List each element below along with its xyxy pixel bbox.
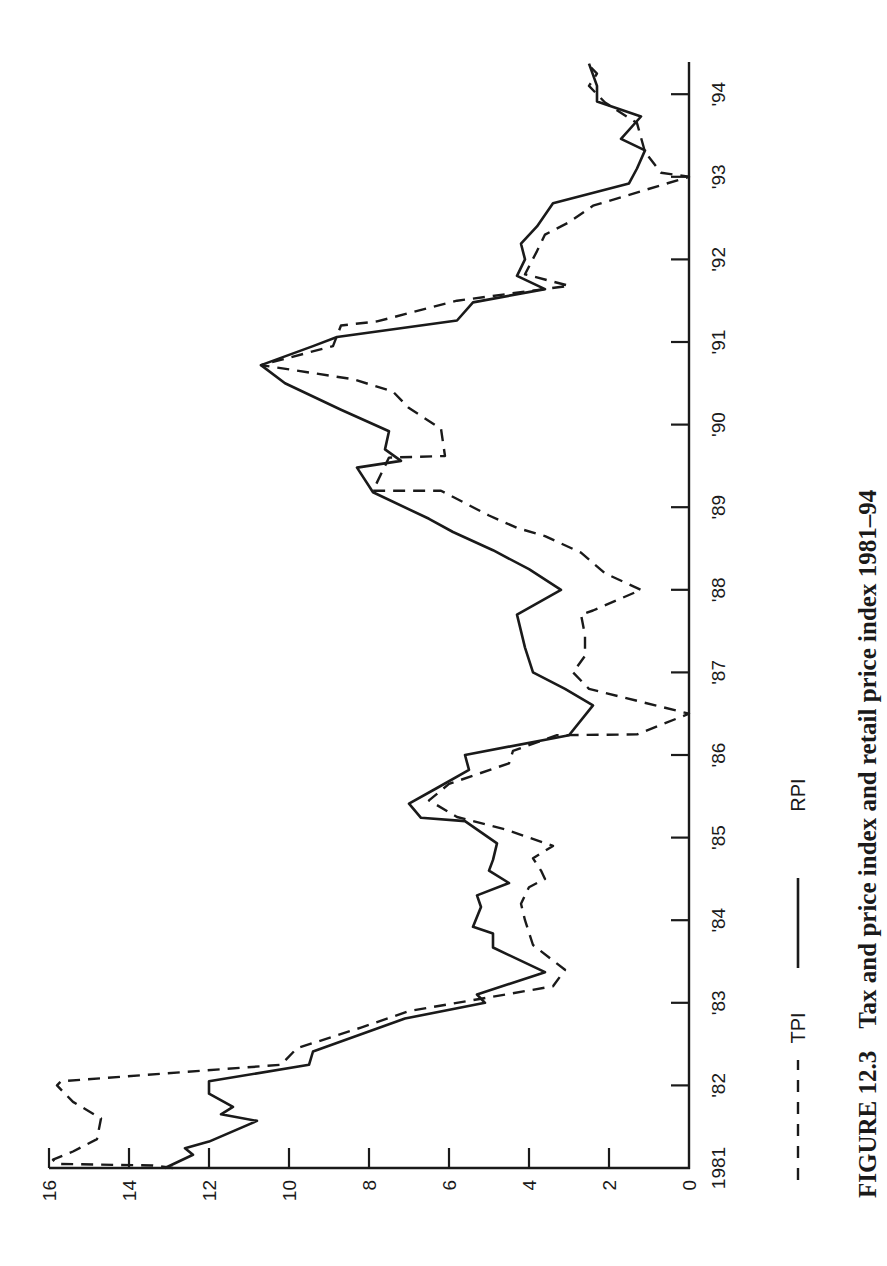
value-tick-label: 12	[199, 1180, 220, 1201]
legend-label-tpi: TPI	[787, 1012, 809, 1043]
time-tick-label: '85	[708, 825, 729, 850]
time-tick-label: '93	[708, 164, 729, 189]
figure-title: Tax and price index and retail price ind…	[854, 489, 881, 1028]
value-tick-label: 16	[39, 1180, 60, 1201]
line-chart: 02468101214161981'82'83'84'85'86'87'88'8…	[0, 0, 887, 1266]
time-tick-label: '83	[708, 990, 729, 1015]
time-tick-label: '89	[708, 495, 729, 520]
figure-number: FIGURE 12.3	[854, 1051, 881, 1198]
value-tick-label: 2	[599, 1180, 620, 1191]
value-tick-label: 10	[279, 1180, 300, 1201]
value-tick-label: 8	[359, 1180, 380, 1191]
legend-label-rpi: RPI	[787, 778, 809, 811]
figure-caption: FIGURE 12.3Tax and price index and retai…	[854, 489, 881, 1198]
value-tick-label: 14	[119, 1180, 140, 1202]
chart-axes: 02468101214161981'82'83'84'85'86'87'88'8…	[39, 62, 729, 1201]
time-tick-label: '94	[708, 81, 729, 106]
time-tick-label: 1981	[708, 1147, 729, 1189]
value-tick-label: 4	[519, 1180, 540, 1191]
time-tick-label: '92	[708, 247, 729, 272]
legend: TPIRPI	[787, 778, 809, 1180]
figure: 02468101214161981'82'83'84'85'86'87'88'8…	[0, 0, 887, 1266]
time-tick-label: '82	[708, 1073, 729, 1098]
value-tick-label: 6	[439, 1180, 460, 1191]
time-tick-label: '90	[708, 412, 729, 437]
series-line-rpi	[165, 64, 645, 1168]
time-tick-label: '91	[708, 330, 729, 355]
time-tick-label: '86	[708, 743, 729, 768]
time-tick-label: '87	[708, 660, 729, 685]
time-tick-label: '84	[708, 907, 729, 932]
time-tick-label: '88	[708, 577, 729, 602]
plot-series	[53, 64, 689, 1168]
figure-caption-text: FIGURE 12.3Tax and price index and retai…	[854, 489, 881, 1198]
value-tick-label: 0	[679, 1180, 700, 1191]
series-line-tpi	[53, 65, 689, 1168]
